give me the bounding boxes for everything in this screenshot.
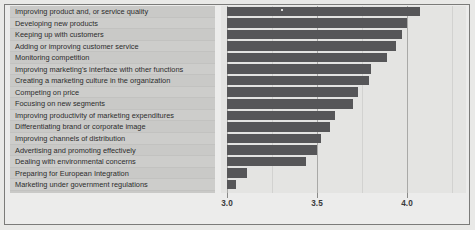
x-tick-label: 3.5 [311, 199, 322, 208]
x-tick [407, 193, 408, 198]
bar-row [221, 18, 466, 30]
bar [227, 41, 396, 51]
bar-row [221, 145, 466, 157]
plot-area [221, 6, 466, 193]
category-label: Differentiating brand or corporate image [10, 121, 215, 133]
bar [227, 180, 236, 190]
x-axis: 3.03.54.0 [221, 193, 466, 215]
bar-row [221, 133, 466, 145]
category-label: Competing on price [10, 87, 215, 99]
bar-row [221, 6, 466, 18]
bar [227, 64, 371, 74]
category-label: Improving productivity of marketing expe… [10, 110, 215, 122]
category-label-panel: Improving product and, or service qualit… [10, 6, 215, 193]
bar-row [221, 179, 466, 191]
bar [227, 122, 330, 132]
bar [227, 53, 387, 63]
category-label: Marketing under government regulations [10, 179, 215, 191]
bar [227, 134, 321, 144]
bar-row [221, 64, 466, 76]
bar-row [221, 29, 466, 41]
bar [227, 87, 358, 97]
category-label: Dealing with environmental concerns [10, 156, 215, 168]
bar-row [221, 110, 466, 122]
bar [227, 30, 402, 40]
bar-row [221, 52, 466, 64]
category-label: Improving channels of distribution [10, 133, 215, 145]
category-label: Focusing on new segments [10, 98, 215, 110]
x-tick [317, 193, 318, 198]
bar [227, 145, 317, 155]
bar [227, 7, 420, 17]
artifact-speck [281, 9, 283, 11]
bar [227, 99, 353, 109]
bar [227, 111, 335, 121]
category-label: Improving product and, or service qualit… [10, 6, 215, 18]
category-label: Developing new products [10, 18, 215, 30]
bar-row [221, 121, 466, 133]
bar-row [221, 98, 466, 110]
category-label: Adding or improving customer service [10, 41, 215, 53]
bar-row [221, 75, 466, 87]
bar [227, 168, 247, 178]
x-tick [227, 193, 228, 198]
bar [227, 76, 369, 86]
x-tick-label: 3.0 [221, 199, 232, 208]
bar [227, 157, 306, 167]
category-label: Creating a marketing culture in the orga… [10, 75, 215, 87]
bar-row [221, 168, 466, 180]
x-tick-label: 4.0 [401, 199, 412, 208]
category-label: Preparing for European Integration [10, 168, 215, 180]
category-label: Improving marketing's interface with oth… [10, 64, 215, 76]
bar [227, 18, 407, 28]
bar-row [221, 87, 466, 99]
category-label: Monitoring competition [10, 52, 215, 64]
bar-row [221, 156, 466, 168]
category-label: Keeping up with customers [10, 29, 215, 41]
category-label: Advertising and promoting effectively [10, 145, 215, 157]
chart-figure: Improving product and, or service qualit… [0, 0, 475, 230]
bar-row [221, 41, 466, 53]
